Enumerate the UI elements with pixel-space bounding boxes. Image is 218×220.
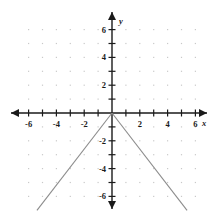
y-tick-label: 4 (102, 52, 107, 62)
grid-dot (195, 99, 196, 100)
grid-dot (98, 29, 99, 30)
grid-dot (42, 71, 43, 72)
grid-dot (56, 57, 57, 58)
grid-dot (70, 85, 71, 86)
grid-dot (42, 99, 43, 100)
grid-dot (153, 57, 154, 58)
grid-dot (195, 57, 196, 58)
x-axis-arrow-right (199, 109, 207, 117)
graph-line-right-branch (112, 113, 187, 210)
grid-dot (84, 182, 85, 183)
grid-dot (56, 182, 57, 183)
grid-dot (195, 43, 196, 44)
grid-dot (153, 140, 154, 141)
y-axis-arrow-up (108, 12, 116, 20)
grid-dot (98, 85, 99, 86)
grid-dot (153, 43, 154, 44)
grid-dot (56, 43, 57, 44)
grid-dot (98, 99, 99, 100)
grid-dot (70, 99, 71, 100)
grid-dot (153, 126, 154, 127)
grid-dot (139, 29, 140, 30)
grid-dot (84, 71, 85, 72)
grid-dot (139, 196, 140, 197)
grid-dot (56, 99, 57, 100)
grid-dot (125, 57, 126, 58)
coordinate-plane-figure: -6-4-2246642-2-4-6 x y (0, 0, 218, 220)
grid-dot (28, 71, 29, 72)
grid-dot (139, 71, 140, 72)
grid-dot (70, 154, 71, 155)
grid-dot (181, 182, 182, 183)
y-tick-label: 6 (102, 25, 106, 35)
grid-dot (153, 99, 154, 100)
x-tick-label: -6 (25, 119, 32, 129)
grid-dot (28, 57, 29, 58)
grid-dot (181, 71, 182, 72)
grid-dot (139, 85, 140, 86)
grid-dot (42, 196, 43, 197)
x-tick-label: 2 (138, 119, 142, 129)
grid-dot (139, 57, 140, 58)
grid-dot (153, 29, 154, 30)
y-tick-label: -6 (99, 191, 106, 201)
grid-dot (125, 85, 126, 86)
grid-dot (84, 85, 85, 86)
grid-dot (153, 85, 154, 86)
x-axis-arrow-left (11, 109, 19, 117)
grid-dot (195, 140, 196, 141)
grid-dot (181, 99, 182, 100)
grid-dot (42, 43, 43, 44)
grid-dot (181, 126, 182, 127)
grid-dot (28, 168, 29, 169)
grid-dot (42, 29, 43, 30)
y-axis-arrow-down (108, 201, 116, 209)
y-tick-label: -4 (99, 164, 107, 174)
grid-dot (181, 196, 182, 197)
grid-dot (84, 57, 85, 58)
grid-dot (167, 182, 168, 183)
axis-layer (11, 12, 207, 209)
grid-dot (70, 57, 71, 58)
grid-dot (56, 196, 57, 197)
x-tick-label: 4 (165, 119, 170, 129)
y-tick-label: 2 (102, 80, 106, 90)
grid-dot (195, 29, 196, 30)
grid-dot (167, 154, 168, 155)
grid-dot (98, 126, 99, 127)
grid-dot (125, 43, 126, 44)
grid-dot (84, 196, 85, 197)
grid-dot (195, 182, 196, 183)
grid-dot (181, 29, 182, 30)
grid-dot (42, 57, 43, 58)
grid-dot (153, 154, 154, 155)
grid-dot (125, 126, 126, 127)
grid-dot (56, 85, 57, 86)
grid-dot (167, 140, 168, 141)
grid-dot (84, 168, 85, 169)
grid-dot (42, 154, 43, 155)
grid-dot (28, 29, 29, 30)
grid-dot (98, 182, 99, 183)
grid-dot (28, 182, 29, 183)
y-axis-label: y (118, 16, 123, 26)
grid-dot (84, 29, 85, 30)
grid-dot (56, 29, 57, 30)
grid-dot (181, 168, 182, 169)
grid-dot (70, 140, 71, 141)
grid-dot (125, 182, 126, 183)
grid-dot (70, 43, 71, 44)
grid-dot (167, 29, 168, 30)
grid-dot (70, 29, 71, 30)
grid-dot (42, 85, 43, 86)
grid-dot (42, 140, 43, 141)
grid-dot (98, 57, 99, 58)
grid-dot (42, 168, 43, 169)
grid-dot (70, 71, 71, 72)
grid-dot (56, 140, 57, 141)
grid-dot (167, 85, 168, 86)
y-tick-label: -2 (99, 136, 106, 146)
grid-dot (56, 168, 57, 169)
grid-dot (56, 71, 57, 72)
grid-dot (181, 43, 182, 44)
